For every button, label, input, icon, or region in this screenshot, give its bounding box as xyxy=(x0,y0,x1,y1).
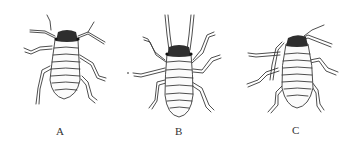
figure-panel-a: A xyxy=(0,0,125,151)
figure-label-c: C xyxy=(292,124,299,136)
insect-illustration-b xyxy=(125,0,240,151)
head-shading xyxy=(286,35,308,47)
head-shading xyxy=(56,30,78,42)
figure-label-b: B xyxy=(175,125,182,137)
insect-illustration-c xyxy=(240,0,361,151)
figure-label-a: A xyxy=(56,125,64,137)
figure-panel-b: B xyxy=(125,0,240,151)
figure-panel-c: C xyxy=(240,0,361,151)
head-shading xyxy=(167,45,191,57)
